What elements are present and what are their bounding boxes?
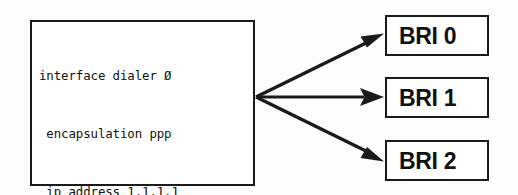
bri-1-label: BRI 1 xyxy=(399,84,456,111)
arrow-to-bri-1 xyxy=(256,88,384,106)
config-line-interface: interface dialer Ø xyxy=(39,66,251,85)
config-text-block: interface dialer Ø encapsulation ppp ip … xyxy=(39,27,251,195)
config-line-encapsulation: encapsulation ppp xyxy=(39,124,251,143)
bri-2-label: BRI 2 xyxy=(399,147,456,174)
bri-1-box: BRI 1 xyxy=(385,77,489,118)
arrow-to-bri-0 xyxy=(256,34,384,98)
diagram-canvas: interface dialer Ø encapsulation ppp ip … xyxy=(0,0,518,195)
config-line-ip-address: ip address 1.1.1.1 xyxy=(39,182,251,195)
arrow-to-bri-2 xyxy=(256,97,384,162)
bri-0-label: BRI 0 xyxy=(399,22,456,49)
dialer-interface-configuration: interface dialer Ø encapsulation ppp ip … xyxy=(30,20,255,186)
bri-2-box: BRI 2 xyxy=(385,140,489,181)
bri-0-box: BRI 0 xyxy=(385,15,489,56)
